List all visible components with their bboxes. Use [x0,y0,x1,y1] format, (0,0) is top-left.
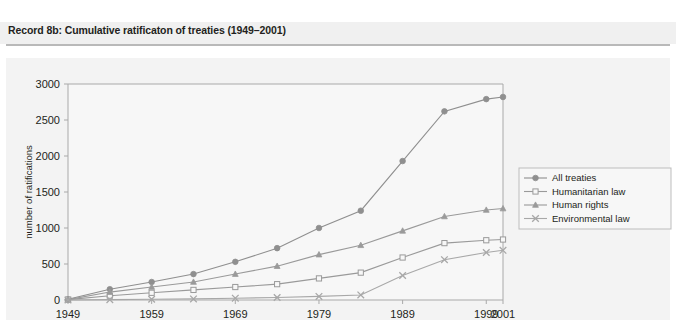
data-point-open-square [149,290,154,295]
y-tick-label: 0 [54,294,60,306]
data-point-filled-circle [400,158,406,164]
x-tick-label: 1989 [390,308,414,320]
data-point-open-square [358,270,363,275]
chart-legend: All treatiesHumanitarian lawHuman rights… [519,168,671,229]
y-axis-title: number of ratifications [23,145,34,239]
legend-label: Humanitarian law [552,186,626,197]
data-point-open-square [500,237,505,242]
chart-container: 050010001500200025003000 194919591969197… [0,0,676,328]
x-tick-label: 2001 [491,308,515,320]
legend-label: Environmental law [552,213,630,224]
data-point-filled-circle [191,271,197,277]
y-tick-label: 2500 [36,114,60,126]
data-point-filled-circle [316,225,322,231]
data-point-open-square [275,282,280,287]
y-tick-label: 1000 [36,222,60,234]
x-tick-label: 1949 [56,308,80,320]
data-point-open-square [533,189,538,194]
data-point-filled-circle [274,245,280,251]
data-point-open-square [400,255,405,260]
y-tick-label: 500 [42,258,60,270]
data-point-filled-circle [533,175,539,181]
x-tick-label: 1959 [139,308,163,320]
data-point-filled-circle [358,208,364,214]
data-point-open-square [484,238,489,243]
data-point-filled-circle [233,259,239,265]
legend-label: All treaties [552,172,597,183]
data-point-open-square [233,284,238,289]
plot-background [68,84,503,300]
figure-page: Record 8b: Cumulative ratificaton of tre… [0,0,676,328]
y-axis-ticks: 050010001500200025003000 [36,78,68,306]
data-point-filled-circle [483,96,489,102]
data-point-open-square [442,241,447,246]
x-tick-label: 1969 [223,308,247,320]
data-point-filled-circle [500,94,506,100]
data-point-open-square [191,287,196,292]
legend-label: Human rights [552,199,609,210]
x-axis-ticks: 1949195919691979198919992001 [56,300,515,320]
data-point-open-square [316,276,321,281]
y-tick-label: 2000 [36,150,60,162]
y-tick-label: 3000 [36,78,60,90]
line-chart: 050010001500200025003000 194919591969197… [0,0,676,328]
data-point-filled-circle [442,109,448,115]
y-tick-label: 1500 [36,186,60,198]
x-tick-label: 1979 [307,308,331,320]
